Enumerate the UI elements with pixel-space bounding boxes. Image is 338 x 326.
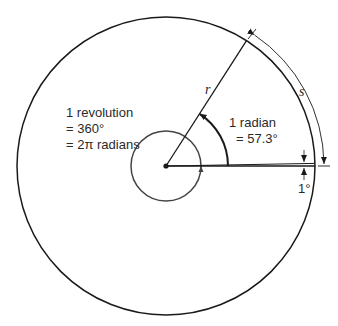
radian-label-line2: = 57.3° <box>236 131 278 146</box>
revolution-label-line2: = 360° <box>66 121 104 136</box>
radian-label-line1: 1 radian <box>229 115 276 130</box>
radian-diagram: r s 1 revolution = 360° = 2π radians 1 r… <box>0 0 338 326</box>
revolution-label-line1: 1 revolution <box>66 105 133 120</box>
degree-label: 1° <box>298 181 310 196</box>
radius-label: r <box>205 82 211 97</box>
radius-line <box>166 41 247 166</box>
revolution-label-line3: = 2π radians <box>66 137 140 152</box>
radian-angle-arc <box>200 114 229 166</box>
center-point <box>163 163 168 168</box>
arc-tick-top <box>248 29 256 39</box>
revolution-arrow-icon <box>199 166 204 172</box>
arc-length-label: s <box>299 84 305 99</box>
